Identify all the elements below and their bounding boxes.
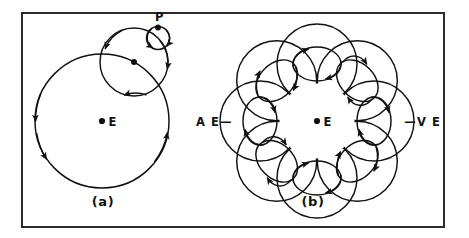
earth-point-dot-a [99,118,105,124]
deferent-arrow-right [155,133,168,162]
deferent-arrow-left [35,94,40,121]
earth-label-b: E [324,115,332,129]
deferent-arrow-bottom-left [37,134,47,159]
epicycle-center-dot [131,59,137,65]
panel-a-caption: (a) [92,194,114,209]
figure-drawing: P E (a) [0,0,469,238]
earth-point-dot-b [314,118,320,124]
panel-b: E A E— —V E (b) [196,24,441,218]
right-apsis-label: —V E [404,115,441,129]
panel-b-caption: (b) [302,194,325,209]
figure-root: P E (a) [0,0,469,238]
planet-label: P [155,10,163,24]
planet-point-dot [155,25,161,31]
left-apsis-label: A E— [196,115,233,129]
panel-a: P E (a) [35,10,170,209]
earth-label-a: E [109,115,117,129]
